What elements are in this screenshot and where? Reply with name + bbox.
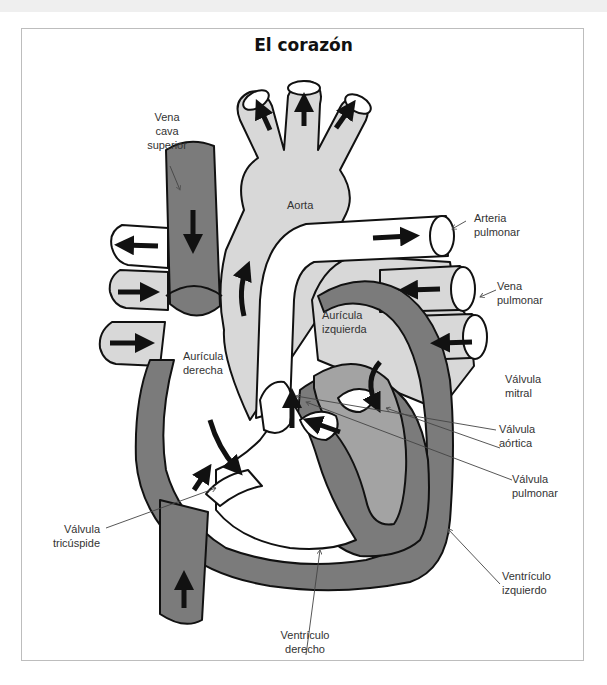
- label-vena-cava-superior: Vena cava superior: [137, 110, 197, 152]
- label-line: Aurícula: [183, 349, 223, 363]
- label-line: derecho: [270, 642, 340, 656]
- label-line: Aurícula: [322, 308, 367, 322]
- label-ventriculo-izquierdo: Ventrículo izquierdo: [502, 569, 551, 597]
- label-aorta: Aorta: [287, 198, 313, 212]
- label-line: Arteria: [474, 211, 520, 225]
- label-line: Válvula: [499, 422, 535, 436]
- label-auricula-izquierda: Aurícula izquierda: [322, 308, 367, 336]
- label-line: Válvula: [505, 372, 541, 386]
- label-line: mitral: [505, 386, 541, 400]
- label-valvula-mitral: Válvula mitral: [505, 372, 541, 400]
- label-valvula-tricuspide: Válvula tricúspide: [40, 522, 100, 550]
- label-line: pulmonar: [474, 225, 520, 239]
- label-line: izquierda: [322, 322, 367, 336]
- label-line: superior: [137, 138, 197, 152]
- label-arteria-pulmonar: Arteria pulmonar: [474, 211, 520, 239]
- label-line: Válvula: [40, 522, 100, 536]
- label-line: derecha: [183, 363, 223, 377]
- label-line: pulmonar: [497, 293, 543, 307]
- label-vena-pulmonar: Vena pulmonar: [497, 279, 543, 307]
- label-line: Ventrículo: [270, 628, 340, 642]
- label-line: Vena: [497, 279, 543, 293]
- label-valvula-pulmonar: Válvula pulmonar: [512, 472, 558, 500]
- label-line: Válvula: [512, 472, 558, 486]
- label-line: aórtica: [499, 436, 535, 450]
- label-valvula-aortica: Válvula aórtica: [499, 422, 535, 450]
- label-line: izquierdo: [502, 583, 551, 597]
- label-line: Ventrículo: [502, 569, 551, 583]
- label-ventriculo-derecho: Ventrículo derecho: [270, 628, 340, 656]
- label-line: pulmonar: [512, 486, 558, 500]
- label-line: tricúspide: [40, 536, 100, 550]
- label-line: cava: [137, 124, 197, 138]
- label-auricula-derecha: Aurícula derecha: [183, 349, 223, 377]
- pulmonary-valve-shape: [260, 382, 292, 433]
- label-line: Vena: [137, 110, 197, 124]
